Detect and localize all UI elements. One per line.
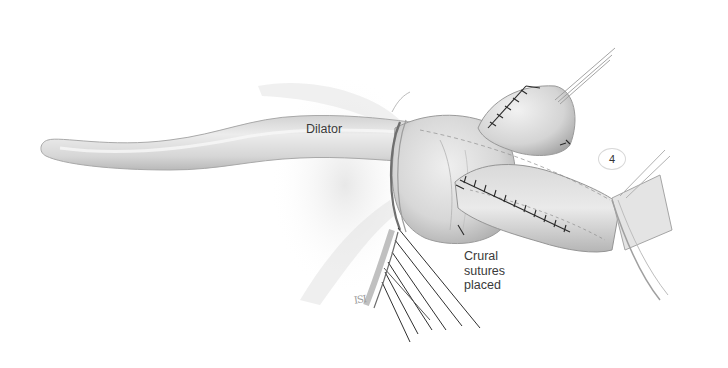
surgical-illustration: Dilator Crural sutures placed 4 ISI bbox=[0, 0, 728, 368]
crural-sutures-label-line-3: placed bbox=[464, 278, 505, 293]
dilator-label: Dilator bbox=[306, 122, 342, 136]
distal-esophagus bbox=[612, 150, 672, 300]
step-number-badge: 4 bbox=[598, 148, 626, 170]
crural-sutures-label-line-1: Crural bbox=[464, 249, 505, 264]
artist-signature: ISI bbox=[353, 293, 366, 306]
crural-sutures-label: Crural sutures placed bbox=[464, 249, 505, 293]
illustration-drawing bbox=[0, 0, 728, 368]
crural-sutures-label-line-2: sutures bbox=[464, 264, 505, 279]
